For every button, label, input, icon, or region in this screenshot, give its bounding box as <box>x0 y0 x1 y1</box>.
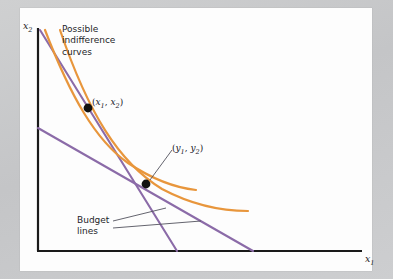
leader-line-budget-lower <box>113 221 201 228</box>
indifference-annotation-line-2: indifference <box>62 35 115 46</box>
budget-annotation-line-1: Budget <box>77 215 109 226</box>
flat-budget-line <box>38 128 253 251</box>
x-axis-label: x1 <box>365 253 375 267</box>
point-label-y-close: ) <box>200 143 204 153</box>
indifference-annotation-line-1: Possible <box>62 24 115 35</box>
y-axis-label-subscript: 2 <box>28 26 32 34</box>
x-axis-label-subscript: 1 <box>370 259 374 267</box>
indifference-curves-annotation: Possible indifference curves <box>62 24 115 58</box>
budget-annotation-line-2: lines <box>77 226 109 237</box>
point-label-y: (y1, y2) <box>172 143 203 156</box>
point-label-x-close: ) <box>120 97 124 107</box>
point-marker-y <box>142 180 151 189</box>
indifference-annotation-line-3: curves <box>62 47 115 58</box>
leader-line-point-y <box>150 150 172 180</box>
budget-lines-annotation: Budget lines <box>77 215 109 238</box>
point-label-x: (x1, x2) <box>92 97 123 110</box>
chart-graphic <box>0 0 393 279</box>
y-axis-label: x2 <box>23 20 33 34</box>
figure-container: x2 x1 Possible indifference curves Budge… <box>0 0 393 279</box>
